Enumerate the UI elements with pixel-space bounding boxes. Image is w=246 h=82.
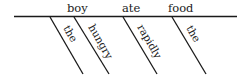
modifier-word-rapidly: rapidly <box>135 22 164 60</box>
object-word: food <box>168 1 194 15</box>
sentence-diagram: boy ate food the hungry rapidly the <box>0 0 246 82</box>
modifier-word-the-2: the <box>184 23 203 44</box>
verb-word: ate <box>122 1 140 15</box>
subject-word: boy <box>67 1 88 15</box>
modifier-word-hungry: hungry <box>86 22 115 61</box>
